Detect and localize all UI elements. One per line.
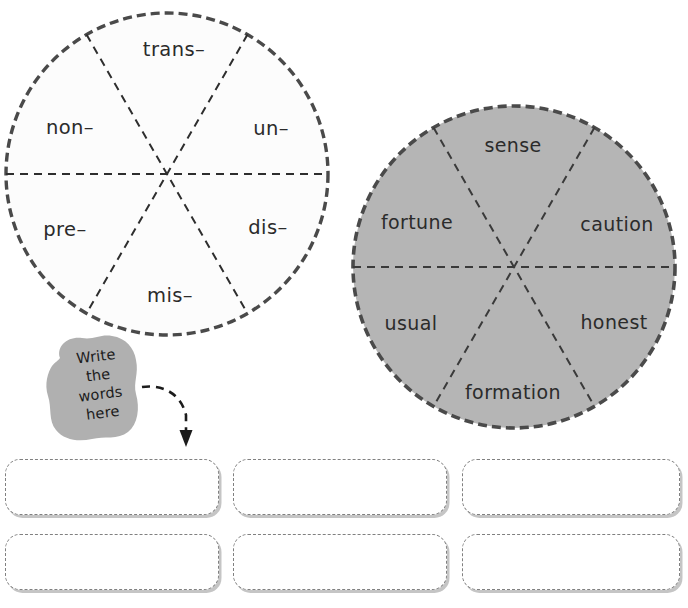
answer-box-4[interactable] [5,534,219,590]
answer-box-6-value [463,535,679,589]
answer-box-2[interactable] [233,459,447,515]
answer-box-5[interactable] [233,534,447,590]
answer-box-2-value [234,460,446,514]
answer-box-3-value [463,460,679,514]
answer-box-4-value [6,535,218,589]
answer-box-1-value [6,460,218,514]
answer-box-1[interactable] [5,459,219,515]
answer-box-3[interactable] [462,459,680,515]
answer-box-5-value [234,535,446,589]
answer-boxes [0,0,688,608]
answer-box-6[interactable] [462,534,680,590]
worksheet-page: trans– un– dis– mis– pre– non– sense cau… [0,0,688,608]
